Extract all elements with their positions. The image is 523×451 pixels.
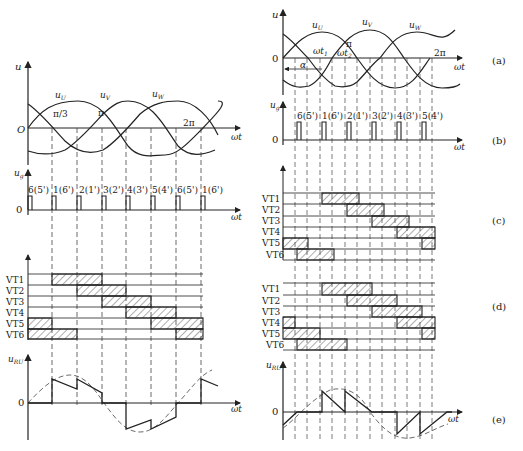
svg-text:VT3: VT3 bbox=[261, 216, 281, 226]
u-axis-label: u bbox=[15, 61, 21, 72]
svg-text:1(6'): 1(6') bbox=[322, 111, 343, 121]
angle-pi-3: π/3 bbox=[53, 109, 68, 119]
right-phase-v-curve bbox=[283, 30, 460, 88]
panel-label-a: (a) bbox=[492, 55, 506, 66]
waveform-diagram: u O ωt uU uV uW π/3 π 2π ug 0 ωt bbox=[0, 0, 523, 451]
panel-label-e: (e) bbox=[492, 414, 506, 425]
svg-text:VT4: VT4 bbox=[5, 308, 25, 318]
svg-text:4(3'): 4(3') bbox=[127, 185, 148, 195]
vt-conduction-c bbox=[283, 193, 435, 260]
svg-text:VT5: VT5 bbox=[5, 319, 25, 329]
ug-label: ug bbox=[14, 168, 24, 180]
svg-text:4(3'): 4(3') bbox=[397, 111, 418, 121]
uru-reference-sine bbox=[28, 370, 212, 432]
svg-text:VT1: VT1 bbox=[261, 194, 280, 204]
svg-text:VT5: VT5 bbox=[261, 329, 281, 339]
svg-text:VT6: VT6 bbox=[265, 250, 285, 260]
ug-wt-label: ωt bbox=[231, 212, 242, 222]
svg-text:VT4: VT4 bbox=[261, 318, 281, 328]
pulse-labels: 6(5') 1(6') 2(1') 3(2') 4(3') 5(4') 6(5'… bbox=[28, 185, 223, 195]
svg-text:VT2: VT2 bbox=[5, 286, 24, 296]
svg-text:1(6'): 1(6') bbox=[53, 185, 74, 195]
svg-text:3(2'): 3(2') bbox=[372, 111, 393, 121]
svg-text:VT3: VT3 bbox=[261, 307, 281, 317]
svg-text:2(1'): 2(1') bbox=[347, 111, 368, 121]
right-wt-label-b: ωt bbox=[454, 142, 465, 152]
panel-label-d: (d) bbox=[492, 301, 506, 312]
right-wt-label-e: ωt bbox=[448, 414, 459, 424]
phase-v-label: uV bbox=[100, 90, 111, 101]
alpha-label: α bbox=[300, 60, 306, 70]
wt-label: ωt bbox=[231, 132, 242, 142]
svg-text:VT2: VT2 bbox=[261, 205, 280, 215]
right-panel: u 0 ωt uU uV uW π 2π ωt1 ωt2 α (a) bbox=[261, 9, 506, 440]
panel-label-b: (b) bbox=[492, 135, 506, 146]
ug-zero: 0 bbox=[16, 204, 22, 215]
svg-text:6(5'): 6(5') bbox=[297, 111, 318, 121]
right-zero-b: 0 bbox=[272, 134, 278, 145]
svg-text:VT4: VT4 bbox=[261, 227, 281, 237]
svg-text:VT6: VT6 bbox=[5, 330, 25, 340]
svg-text:6(5'): 6(5') bbox=[28, 185, 49, 195]
dashed-guides bbox=[52, 128, 201, 405]
vt-labels-left: VT1 VT2 VT3 VT4 VT5 VT6 bbox=[5, 275, 25, 340]
uru-wt-label: ωt bbox=[231, 404, 242, 414]
right-wt-label-a: ωt bbox=[454, 62, 465, 72]
origin-label: O bbox=[17, 124, 25, 135]
svg-text:VT2: VT2 bbox=[261, 296, 280, 306]
right-u-label: u bbox=[272, 9, 278, 20]
vt-labels-d: VT1 VT2 VT3 VT4 VT5 VT6 bbox=[261, 284, 285, 350]
gate-pulses bbox=[28, 196, 205, 210]
vt-conduction-d bbox=[283, 283, 435, 350]
svg-text:VT3: VT3 bbox=[5, 297, 25, 307]
svg-text:1(6'): 1(6') bbox=[202, 185, 223, 195]
panel-label-c: (c) bbox=[492, 215, 506, 226]
vt-labels-c: VT1 VT2 VT3 VT4 VT5 VT6 bbox=[261, 194, 285, 260]
uru-waveform bbox=[28, 379, 218, 429]
uru-label: uRU bbox=[8, 354, 24, 365]
svg-text:5(4'): 5(4') bbox=[422, 111, 443, 121]
svg-text:VT6: VT6 bbox=[265, 340, 285, 350]
phase-w-label: uW bbox=[152, 89, 165, 100]
angle-2pi: 2π bbox=[183, 118, 195, 128]
phase-u-label: uU bbox=[55, 90, 67, 101]
wt2-label: ωt2 bbox=[337, 48, 352, 59]
wt1-label: ωt1 bbox=[313, 46, 328, 57]
right-zero-a: 0 bbox=[272, 53, 278, 64]
angle-pi: π bbox=[98, 108, 104, 118]
svg-text:VT5: VT5 bbox=[261, 238, 281, 248]
right-uru-label: uRU bbox=[266, 360, 282, 371]
svg-text:3(2'): 3(2') bbox=[103, 185, 124, 195]
svg-text:5(4'): 5(4') bbox=[152, 185, 173, 195]
left-panel: u O ωt uU uV uW π/3 π 2π ug 0 ωt bbox=[5, 61, 242, 440]
svg-text:VT1: VT1 bbox=[5, 275, 24, 285]
right-zero-e: 0 bbox=[272, 406, 278, 417]
right-phase-w-label: uW bbox=[409, 20, 422, 31]
svg-text:VT1: VT1 bbox=[261, 284, 280, 294]
uru-zero: 0 bbox=[18, 397, 24, 408]
right-phase-u-label: uU bbox=[312, 20, 324, 31]
svg-text:6(5'): 6(5') bbox=[177, 185, 198, 195]
svg-text:2(1'): 2(1') bbox=[79, 185, 100, 195]
right-angle-2pi: 2π bbox=[434, 48, 446, 58]
right-phase-v-label: uV bbox=[362, 17, 373, 28]
right-ug-label: ug bbox=[270, 100, 280, 112]
